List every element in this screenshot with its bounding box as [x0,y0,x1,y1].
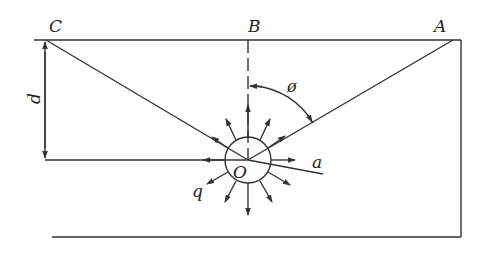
line-a-o [248,40,453,160]
diagram-canvas: C B A d ø O a q [0,0,488,254]
angle-arc [255,86,313,123]
label-b: B [247,16,261,36]
label-a-lower: a [312,152,322,172]
label-o: O [233,162,247,182]
label-phi: ø [286,77,297,96]
label-c: C [49,16,62,36]
line-c-o [46,40,248,160]
label-a: A [432,16,446,36]
label-q: q [192,181,203,201]
label-d: d [24,93,44,104]
diagram-svg: C B A d ø O a q [0,0,488,254]
angle-arrow-left [250,86,262,87]
angle-arrow-right [308,115,312,122]
